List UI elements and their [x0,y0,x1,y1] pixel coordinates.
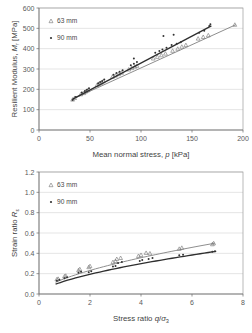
data-point-marker [209,23,211,25]
y-tick-label: 400 [23,45,35,52]
data-point-marker [136,61,138,63]
legend-marker [50,37,52,39]
data-point-marker [130,64,132,66]
data-point-marker [141,259,143,261]
x-axis-ticks: 050100150200 [37,130,249,142]
y-tick-label: 0 [31,127,35,134]
data-point-marker [173,34,175,36]
data-point-marker [88,87,90,89]
data-point-marker [162,35,164,37]
data-point-marker [80,271,82,273]
data-point-marker [161,48,163,50]
x-tick-label: 2 [88,299,92,306]
y-tick-label: 100 [23,106,35,113]
data-point-marker [139,260,141,262]
y-tick-label: 300 [23,66,35,73]
data-point-marker [148,258,150,260]
x-tick-label: 200 [237,135,249,142]
y-tick-label: 0.4 [25,250,35,257]
data-point-marker [214,250,216,252]
data-point-marker [203,30,205,32]
data-point-marker [178,254,180,256]
data-point-marker [160,53,164,57]
data-point-marker [117,262,119,264]
data-point-marker [166,47,168,49]
data-point-marker [119,71,121,73]
data-point-marker [90,270,92,272]
data-point-marker [75,96,77,98]
y-axis-ticks: 0100200300400500600 [23,5,39,134]
data-point-marker [176,43,178,45]
x-tick-label: 4 [139,299,143,306]
data-point-marker [171,49,175,53]
trend-line [73,25,236,99]
legend-label: 63 mm [57,181,78,188]
y-tick-label: 1.0 [25,189,35,196]
x-axis-ticks: 02468 [37,294,245,306]
data-point-marker [171,44,173,46]
legend-label: 63 mm [57,17,78,24]
y-tick-label: 0.8 [25,209,35,216]
data-point-marker [154,52,156,54]
data-point-marker [164,52,168,56]
data-point-marker [81,91,83,93]
x-axis-title: Stress ratio q/σ3 [113,314,169,324]
data-point-marker [103,79,105,81]
series-63-mm [55,241,216,282]
y-axis-ticks: 0.00.20.40.60.81.01.2 [25,169,39,298]
data-point-marker [116,72,118,74]
data-point-marker [88,271,90,273]
resilient-modulus-chart: 010020030040050060005010015020063 mm90 m… [0,0,252,166]
data-point-marker [121,261,123,263]
resilient-modulus-plot: 010020030040050060005010015020063 mm90 m… [0,0,252,166]
strain-ratio-chart: 0.00.20.40.60.81.01.20246863 mm90 mmStre… [0,166,252,333]
y-tick-label: 0.6 [25,230,35,237]
y-tick-label: 0.0 [25,291,35,298]
legend: 63 mm90 mm [49,17,78,41]
x-tick-label: 6 [190,299,194,306]
data-point-marker [72,99,74,101]
data-point-marker [119,256,123,260]
data-point-marker [58,279,60,281]
data-point-marker [86,89,88,91]
data-point-marker [133,57,135,59]
data-point-marker [133,63,135,65]
data-point-marker [201,35,205,39]
data-point-marker [112,74,114,76]
x-tick-label: 100 [135,135,147,142]
x-tick-label: 0 [37,135,41,142]
data-point-marker [101,80,103,82]
strain-ratio-plot: 0.00.20.40.60.81.01.20246863 mm90 mmStre… [0,166,252,333]
data-point-marker [151,257,153,259]
data-point-marker [64,277,66,279]
y-tick-label: 0.2 [25,270,35,277]
data-point-marker [180,41,182,43]
x-tick-label: 150 [186,135,198,142]
data-point-marker [180,246,184,250]
y-tick-label: 1.2 [25,169,35,176]
data-point-marker [184,43,188,47]
data-point-marker [233,23,237,27]
data-point-marker [115,265,117,267]
data-point-marker [56,280,58,282]
data-point-marker [182,254,184,256]
legend-marker [49,19,53,23]
legend-marker [50,201,52,203]
data-point-marker [99,81,101,83]
y-tick-label: 600 [23,5,35,12]
data-point-marker [196,37,200,41]
legend: 63 mm90 mm [49,181,78,205]
y-tick-label: 200 [23,86,35,93]
data-point-marker [206,33,210,37]
data-point-marker [84,90,86,92]
data-point-marker [97,82,99,84]
trend-line [73,26,212,99]
y-axis-title: Strain ratio Rε [10,208,20,257]
x-tick-label: 50 [86,135,94,142]
data-point-marker [78,272,80,274]
x-tick-label: 8 [241,299,245,306]
data-point-marker [211,251,213,253]
legend-label: 90 mm [57,198,78,205]
y-axis-title: Resilient Modulus, Mr [MPa] [10,21,20,118]
data-point-marker [198,32,200,34]
